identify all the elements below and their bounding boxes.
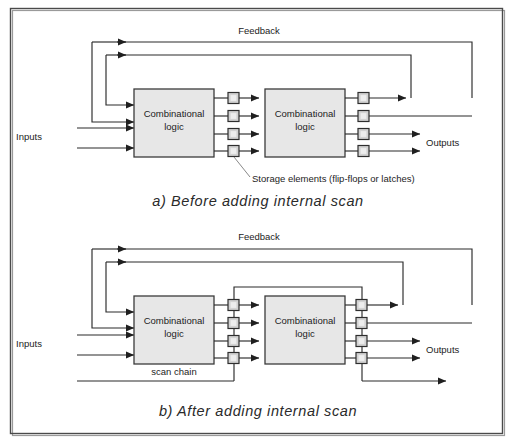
panel-b-storage-middle-group — [214, 300, 259, 364]
panel-b-storage-element-core — [231, 338, 237, 344]
panel-a-block1-label-line2: logic — [164, 121, 184, 132]
panel-a-block1-label-line1: Combinational — [144, 108, 205, 119]
panel-a-storage-element-core — [361, 95, 367, 101]
panel-a-inputs-label: Inputs — [16, 131, 42, 142]
panel-b-caption: b) After adding internal scan — [159, 403, 357, 419]
panel-b-storage-element-core — [231, 302, 237, 308]
panel-b-storage-element-core — [359, 355, 365, 361]
panel-b-storage-element-core — [359, 302, 365, 308]
panel-a-storage-leader-line — [234, 157, 250, 177]
panel-a-block2-label-line2: logic — [295, 121, 315, 132]
figure-frame-shadow — [13, 11, 505, 436]
panel-a: Feedback Inputs Combinational logic — [16, 25, 472, 209]
panel-a-storage-element-core — [231, 113, 237, 119]
panel-a-feedback-inner-left — [106, 55, 134, 105]
panel-a-feedback-label: Feedback — [238, 25, 280, 36]
panel-b-block2-label-line2: logic — [295, 328, 315, 339]
panel-b-block1-label-line2: logic — [164, 328, 184, 339]
figure-root: Feedback Inputs Combinational logic — [0, 0, 514, 445]
panel-b-feedback-inner-left — [106, 262, 134, 312]
panel-a-feedback-outer-left — [92, 42, 134, 122]
panel-b-storage-element-core — [359, 338, 365, 344]
panel-a-storage-element-core — [361, 113, 367, 119]
panel-a-storage-element-core — [231, 148, 237, 154]
figure-frame — [11, 9, 503, 434]
panel-b-storage-element-core — [231, 320, 237, 326]
panel-b: Feedback Inputs Combinational logic — [16, 231, 472, 419]
panel-b-scan-chain-label: scan chain — [151, 366, 196, 377]
panel-b-feedback-outer-left — [92, 249, 134, 328]
panel-a-storage-element-core — [361, 148, 367, 154]
panel-a-outputs-label: Outputs — [426, 137, 460, 148]
panel-a-storage-element-core — [361, 131, 367, 137]
panel-b-storage-element-core — [231, 355, 237, 361]
panel-a-storage-note: Storage elements (flip-flops or latches) — [252, 173, 415, 184]
panel-b-inputs-label: Inputs — [16, 338, 42, 349]
panel-b-block1-label-line1: Combinational — [144, 315, 205, 326]
panel-a-block2-label-line1: Combinational — [275, 108, 336, 119]
panel-b-feedback-label: Feedback — [238, 231, 280, 242]
panel-b-outputs-label: Outputs — [426, 344, 460, 355]
panel-a-caption: a) Before adding internal scan — [152, 193, 363, 209]
panel-a-storage-element-core — [231, 95, 237, 101]
panel-b-block2-label-line1: Combinational — [275, 315, 336, 326]
scan-insertion-figure: Feedback Inputs Combinational logic — [0, 0, 514, 445]
panel-a-storage-element-core — [231, 131, 237, 137]
panel-a-storage-middle-group — [214, 93, 259, 157]
panel-b-storage-element-core — [359, 320, 365, 326]
